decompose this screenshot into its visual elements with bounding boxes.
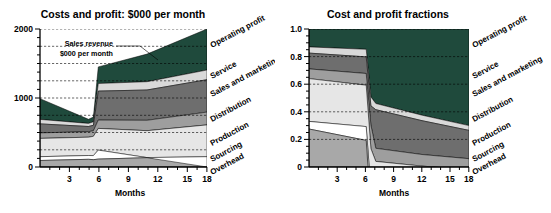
right-chart-svg: Cost and profit fractions <box>276 0 551 213</box>
right-stacked-areas <box>309 29 469 213</box>
right-xtick-15: 15 <box>445 174 455 184</box>
right-band-labels: Operating profit Service Sales and marke… <box>471 13 544 176</box>
right-xtick-12: 12 <box>417 174 427 184</box>
left-x-ticks <box>50 167 207 172</box>
left-chart-title: Costs and profit: $000 per month <box>41 8 206 20</box>
left-ytick-1000: 1000 <box>14 93 33 103</box>
right-ytick-0: 0 <box>297 162 302 172</box>
left-label-production: Production <box>209 120 251 148</box>
right-ytick-0-4: 0.4 <box>290 107 302 117</box>
right-label-production: Production <box>471 120 513 148</box>
right-ytick-1-0: 1.0 <box>290 24 302 34</box>
panel-costs-and-profit: Costs and profit: $000 per month <box>0 0 275 213</box>
left-label-operating-profit: Operating profit <box>209 13 267 49</box>
left-ytick-0: 0 <box>28 162 33 172</box>
right-xtick-3: 3 <box>335 174 340 184</box>
left-xtick-12: 12 <box>153 174 163 184</box>
right-xtick-9: 9 <box>391 174 396 184</box>
right-x-axis-label: Months <box>379 188 409 198</box>
left-xtick-18: 18 <box>202 174 212 184</box>
right-xtick-6: 6 <box>363 174 368 184</box>
annotation-line-2: $000 per month <box>60 49 113 58</box>
left-xtick-3: 3 <box>67 174 72 184</box>
right-label-distribution: Distribution <box>471 95 515 124</box>
left-xtick-15: 15 <box>183 174 193 184</box>
left-ytick-2000: 2000 <box>14 24 33 34</box>
right-y-ticks <box>304 29 309 167</box>
panel-cost-and-profit-fractions: Cost and profit fractions <box>276 0 551 213</box>
right-ytick-0-2: 0.2 <box>290 134 302 144</box>
figure-root: Costs and profit: $000 per month <box>0 0 551 213</box>
left-xtick-9: 9 <box>126 174 131 184</box>
right-chart-title: Cost and profit fractions <box>327 8 449 20</box>
left-xtick-6: 6 <box>97 174 102 184</box>
left-chart-svg: Costs and profit: $000 per month <box>0 0 275 213</box>
right-xtick-18: 18 <box>464 174 474 184</box>
right-label-operating-profit: Operating profit <box>471 13 529 49</box>
right-ytick-0-6: 0.6 <box>290 79 302 89</box>
left-label-distribution: Distribution <box>209 95 253 124</box>
left-x-axis-label: Months <box>115 188 145 198</box>
right-x-ticks <box>318 167 468 172</box>
left-y-ticks <box>35 29 40 167</box>
left-band-labels: Operating profit Service Sales and marke… <box>209 13 275 176</box>
right-ytick-0-8: 0.8 <box>290 52 302 62</box>
annotation-line-1: Sales revenue <box>65 39 113 48</box>
